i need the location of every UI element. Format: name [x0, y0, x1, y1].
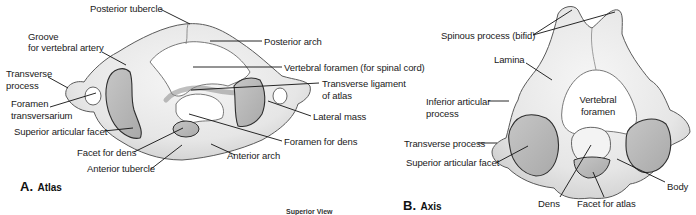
label-transverse-ligament-line1: Transverse ligament: [322, 78, 406, 89]
panel-label-axis: B. Axis: [403, 196, 442, 214]
label-groove-line2: for vertebral artery: [28, 42, 104, 53]
label-transverse-process-line2: process: [6, 80, 39, 91]
label-foramen-transversarium-line2: transversarium: [11, 110, 72, 121]
label-posterior-tubercle: Posterior tubercle: [90, 3, 163, 14]
atlas-right-foramen-transversarium: [273, 88, 287, 104]
label-facet-for-dens: Facet for dens: [77, 147, 136, 158]
panel-name-axis: Axis: [420, 201, 441, 212]
label-vertebral-foramen: Vertebral foramen (for spinal cord): [284, 62, 425, 73]
label-lateral-mass: Lateral mass: [313, 111, 366, 122]
label-axis-vertebral-foramen-line2: foramen: [573, 106, 623, 117]
panel-name-atlas: Atlas: [37, 182, 61, 193]
label-anterior-arch: Anterior arch: [227, 150, 280, 161]
label-dens: Dens: [538, 198, 560, 209]
panel-letter-b: B.: [403, 198, 416, 213]
axis-right-superior-facet: [626, 119, 671, 172]
label-spinous-process: Spinous process (bifid): [441, 30, 535, 41]
label-lamina: Lamina: [494, 54, 525, 65]
label-foramen-for-dens: Foramen for dens: [284, 136, 357, 147]
label-groove-line1: Groove: [28, 31, 59, 42]
label-anterior-tubercle: Anterior tubercle: [87, 163, 155, 174]
panel-label-atlas: A. Atlas: [20, 177, 62, 195]
label-foramen-transversarium-line1: Foramen: [11, 98, 48, 109]
label-facet-for-atlas: Facet for atlas: [577, 198, 636, 209]
label-axis-superior-articular-facet: Superior articular facet: [406, 157, 499, 168]
label-superior-articular-facet-atlas: Superior articular facet: [14, 126, 107, 137]
label-posterior-arch: Posterior arch: [264, 36, 322, 47]
label-axis-vertebral-foramen-line1: Vertebral: [573, 94, 623, 105]
label-inferior-articular-line2: process: [426, 108, 459, 119]
label-inferior-articular-line1: Inferior articular: [426, 96, 490, 107]
atlas-facet-for-dens: [173, 121, 199, 137]
label-axis-transverse-process: Transverse process: [404, 138, 485, 149]
label-transverse-process-line1: Transverse: [6, 68, 52, 79]
leader-posterior-tubercle: [160, 9, 190, 24]
label-body: Body: [667, 181, 688, 192]
label-transverse-ligament-line2: of atlas: [322, 90, 352, 101]
view-caption: Superior View: [286, 208, 333, 215]
panel-letter-a: A.: [20, 179, 33, 194]
